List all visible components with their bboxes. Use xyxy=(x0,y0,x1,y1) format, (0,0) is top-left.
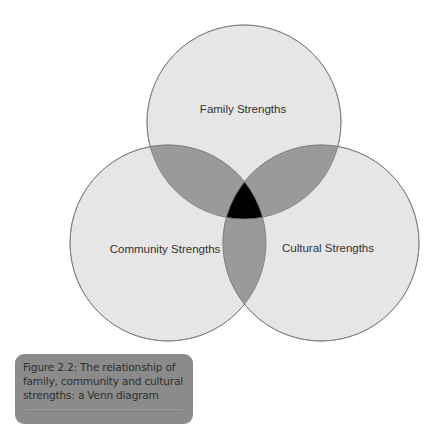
caption-divider xyxy=(25,409,183,410)
family-label: Family Strengths xyxy=(200,103,287,115)
cultural-label: Cultural Strengths xyxy=(282,242,374,254)
community-label: Community Strengths xyxy=(110,243,221,255)
figure-caption: Figure 2.2: The relationship of family, … xyxy=(15,354,193,424)
caption-line: strengths: a Venn diagram xyxy=(23,388,187,402)
caption-line: Figure 2.2: The relationship of xyxy=(23,360,187,374)
caption-line: family, community and cultural xyxy=(23,374,187,388)
